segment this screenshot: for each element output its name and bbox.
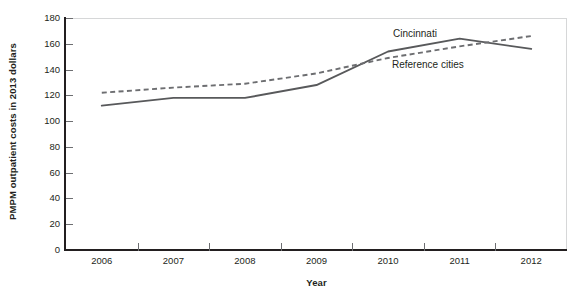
- series-annotation-cincinnati: Cincinnati: [393, 29, 437, 39]
- x-axis-title: Year: [66, 277, 567, 288]
- series-layer: [0, 0, 587, 298]
- line-chart-figure: PMPM outpatient costs in 2013 dollars 18…: [0, 0, 587, 298]
- series-annotation-reference-cities: Reference cities: [392, 60, 464, 70]
- series-line-cincinnati: [102, 39, 531, 106]
